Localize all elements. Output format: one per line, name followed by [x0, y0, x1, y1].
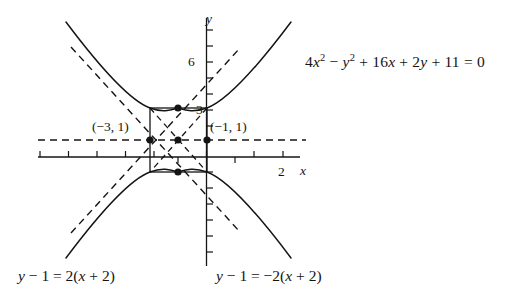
- x-tick-label-2: 2: [278, 164, 285, 180]
- vertex-label-right: (−1, 1): [210, 119, 247, 135]
- x-axis-label: x: [300, 163, 306, 179]
- asymptote-label-right: y − 1 = −2(x + 2): [216, 267, 322, 285]
- vertex-lower-point: [174, 168, 181, 175]
- hyperbola-upper-branch: [66, 22, 291, 111]
- asymptote-label-left: y − 1 = 2(x + 2): [18, 267, 115, 285]
- co-vertex-left-point: [146, 136, 153, 143]
- vertex-label-left: (−3, 1): [92, 119, 129, 135]
- hyperbola-lower-branch: [66, 169, 291, 258]
- y-axis-label: y: [206, 11, 212, 27]
- vertex-upper-point: [174, 104, 181, 111]
- hyperbola-figure: [0, 0, 523, 305]
- y-tick-label-6: 6: [188, 54, 195, 70]
- conic-equation: 4x2 − y2 + 16x + 2y + 11 = 0: [305, 52, 485, 71]
- center-point: [174, 136, 181, 143]
- y-tick-label-3: 3: [196, 102, 203, 118]
- co-vertex-right-point: [203, 136, 210, 143]
